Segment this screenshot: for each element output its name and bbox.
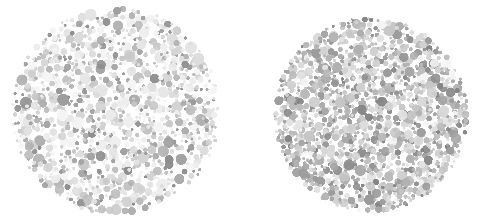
ishihara-plate-pair — [0, 0, 489, 220]
ishihara-plate-left-dot-canvas — [10, 5, 222, 217]
ishihara-plate-right — [272, 16, 470, 214]
ishihara-plate-left — [10, 5, 222, 217]
ishihara-plate-right-dot-canvas — [272, 16, 470, 214]
